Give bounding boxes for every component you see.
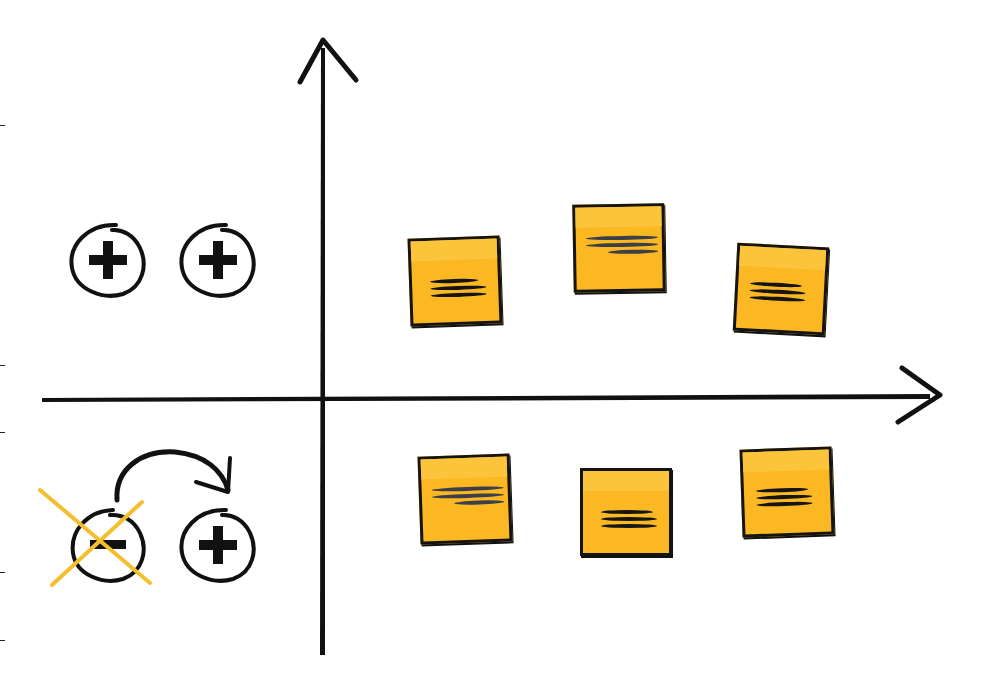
sticky-note — [417, 453, 512, 544]
note-flap — [411, 239, 498, 262]
note-flap — [421, 457, 508, 480]
note-scribble — [601, 524, 657, 528]
note-flap — [575, 206, 661, 227]
note-scribble — [430, 292, 486, 298]
cross-out-icon — [40, 490, 150, 585]
note-scribble — [608, 249, 658, 254]
note-scribble — [756, 501, 812, 507]
sticky-note — [733, 243, 829, 336]
sticky-note — [739, 446, 834, 537]
plus-circle-icon — [71, 225, 143, 296]
note-scribble — [586, 242, 658, 247]
note-scribble — [750, 288, 806, 295]
vertical-axis — [300, 40, 356, 655]
note-flap — [743, 450, 830, 473]
note-scribble — [756, 494, 812, 500]
horizontal-axis — [42, 368, 940, 422]
sticky-note — [407, 235, 502, 326]
note-scribble — [756, 487, 808, 493]
sticky-note — [572, 203, 666, 293]
note-scribble — [601, 517, 657, 521]
note-flap — [739, 246, 826, 270]
note-scribble — [750, 281, 802, 288]
note-flap — [583, 471, 669, 491]
curved-arrow-icon — [117, 452, 230, 500]
note-scribble — [586, 235, 658, 240]
note-scribble — [432, 493, 504, 500]
quadrant-diagram — [0, 0, 998, 685]
plus-circle-icon — [181, 225, 253, 296]
note-scribble — [430, 278, 478, 284]
note-scribble — [749, 295, 805, 302]
note-scribble — [601, 510, 653, 514]
note-scribble — [430, 285, 486, 291]
plus-circle-icon — [181, 510, 253, 581]
note-scribble — [432, 486, 504, 493]
sticky-note — [580, 468, 672, 556]
note-scribble — [454, 500, 504, 506]
